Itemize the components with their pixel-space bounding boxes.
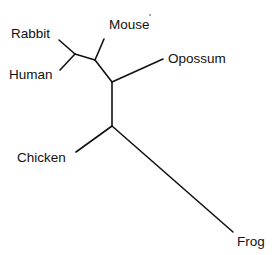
branch-rabbit_human-to-human xyxy=(60,54,75,70)
leaf-label-frog: Frog xyxy=(237,234,265,249)
branch-chicken-to-frog xyxy=(112,126,233,232)
stray-dot xyxy=(149,14,151,16)
leaf-label-rabbit: Rabbit xyxy=(11,26,50,41)
phylogenetic-tree: RabbitHumanMouseOpossumChickenFrog xyxy=(0,0,275,255)
branch-opossum-to-opossum xyxy=(112,59,163,82)
leaf-labels: RabbitHumanMouseOpossumChickenFrog xyxy=(9,17,265,249)
branch-rabbit_human-to-mouse xyxy=(75,54,95,60)
leaf-label-mouse: Mouse xyxy=(109,17,150,32)
branch-chicken-to-chicken xyxy=(76,126,112,152)
leaf-label-opossum: Opossum xyxy=(168,51,226,66)
tree-branches xyxy=(59,39,233,232)
branch-mouse-to-opossum xyxy=(95,60,112,82)
branch-mouse-to-mouse xyxy=(95,39,104,60)
branch-rabbit_human-to-rabbit xyxy=(59,40,75,54)
leaf-label-chicken: Chicken xyxy=(17,150,66,165)
leaf-label-human: Human xyxy=(9,67,53,82)
